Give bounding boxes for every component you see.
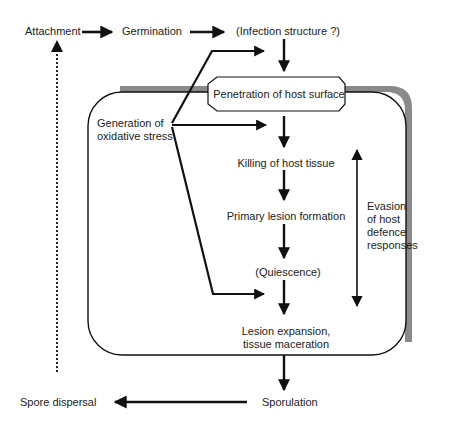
label-penetration: Penetration of host surface (213, 88, 344, 101)
label-primary-lesion: Primary lesion formation (227, 210, 346, 223)
label-evasion: Evasion of host defence responses (367, 200, 418, 252)
label-attachment: Attachment (25, 25, 81, 38)
label-oxidative-stress: Generation of oxidative stress (97, 117, 173, 143)
diagram-canvas: Attachment Germination (Infection struct… (0, 0, 455, 435)
dotted-arrowhead (51, 40, 63, 52)
label-killing: Killing of host tissue (237, 157, 334, 170)
label-quiescence: (Quiescence) (255, 266, 320, 279)
label-infection-structure: (Infection structure ?) (236, 25, 340, 38)
label-spore-dispersal: Spore dispersal (20, 396, 96, 409)
label-germination: Germination (122, 25, 182, 38)
label-lesion-expansion: Lesion expansion, tissue maceration (242, 325, 331, 351)
label-sporulation: Sporulation (262, 396, 318, 409)
